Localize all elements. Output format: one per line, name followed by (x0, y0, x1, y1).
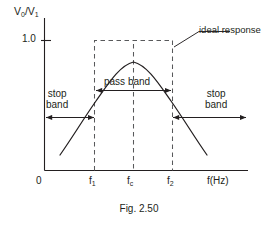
y-tick-label-unity: 1.0 (22, 33, 36, 44)
ideal-response-label: ideal response (199, 24, 261, 35)
figure-container: V0/V1 1.0 0 f1 fc f2 f(Hz) ideal respons… (0, 0, 278, 228)
figure-caption: Fig. 2.50 (0, 203, 278, 214)
x-axis-label: f(Hz) (207, 175, 229, 186)
stop-band-left-label: stop band (46, 88, 68, 110)
x-tick-label-f1: f1 (89, 175, 96, 186)
pass-band-label: pass band (104, 76, 150, 87)
y-axis-label: V0/V1 (14, 6, 39, 17)
x-tick-label-f2: f2 (167, 175, 174, 186)
origin-label: 0 (36, 175, 42, 186)
x-tick-label-fc: fc (127, 175, 133, 186)
stop-band-right-label: stop band (205, 88, 227, 110)
